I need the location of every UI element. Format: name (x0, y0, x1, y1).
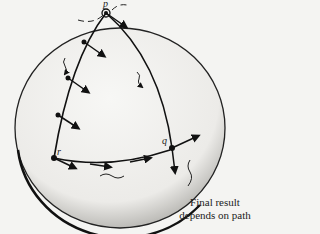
caption-line-1: Final result (170, 196, 259, 209)
figure-caption: Final result depends on path (170, 196, 259, 222)
point-label-r: r (57, 146, 61, 157)
caption-line-2: depends on path (170, 209, 259, 222)
point-label-q: q (162, 135, 167, 146)
point-label-p: p (103, 0, 108, 9)
